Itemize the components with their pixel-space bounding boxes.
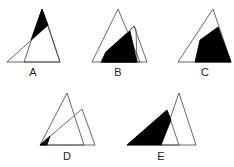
option-c-label: C (201, 67, 209, 78)
option-e-figure (127, 93, 196, 145)
option-b-label: B (114, 67, 121, 78)
triangles-diagram (0, 0, 234, 167)
option-e-label: E (157, 151, 164, 162)
option-b-figure (92, 9, 147, 62)
multiple-choice-figure: A B C D E (0, 0, 234, 167)
option-a-figure (7, 9, 60, 62)
option-a-label: A (29, 67, 36, 78)
option-d-label: D (63, 151, 71, 162)
option-c-figure (178, 9, 231, 62)
option-d-figure (40, 93, 95, 145)
